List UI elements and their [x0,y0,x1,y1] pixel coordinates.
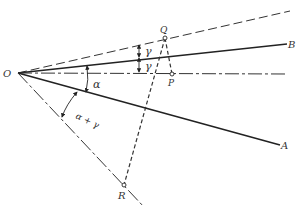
upper-dashed-line [18,11,290,73]
label-P: P [167,78,175,88]
point-P-marker [170,72,174,76]
label-A: A [280,140,288,151]
label-alpha: α [93,78,101,91]
line-OB [18,44,287,73]
geometry-diagram: O Q P R B A γ γ α α + γ [0,0,300,219]
alpha-arc [86,66,88,92]
horizontal-dashed-line [18,73,287,74]
label-gamma-lower: γ [145,60,152,73]
label-gamma-upper: γ [145,45,152,58]
label-B: B [287,39,295,50]
label-alpha-plus-gamma: α + γ [74,111,101,131]
label-O: O [3,68,11,79]
point-Q-marker [163,36,167,40]
alpha-plus-gamma-arc [62,92,77,117]
line-OA [18,73,280,145]
point-R-marker [122,183,126,187]
label-Q: Q [160,25,168,35]
label-R: R [117,190,126,201]
